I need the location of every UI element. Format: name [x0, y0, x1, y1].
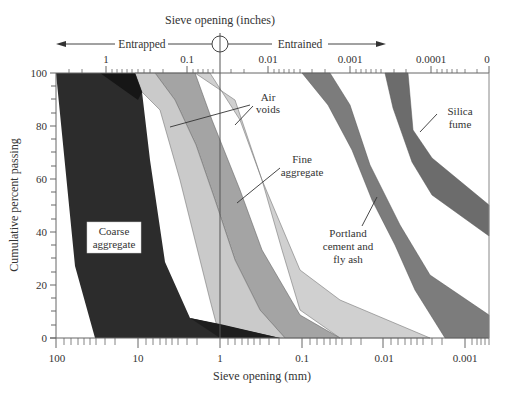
- y-tick-labels: 100 80 60 40 20 0: [31, 67, 48, 344]
- y-axis-label: Cumulative percent passing: [7, 138, 21, 271]
- arrow-right-icon: [376, 41, 386, 47]
- silica-label-line1: Silica: [447, 105, 472, 117]
- x-tick-1: 1: [217, 352, 223, 364]
- fine-aggregate-label: Fine aggregate: [237, 153, 323, 203]
- portland-cement-label: Portland cement and fly ash: [323, 197, 377, 265]
- portland-label-line1: Portland: [329, 227, 367, 239]
- portland-label-line2: cement and: [323, 240, 374, 252]
- y-tick-100: 100: [31, 67, 48, 79]
- x-axis-label: Sieve opening (mm): [213, 369, 311, 383]
- portland-pointer: [362, 197, 377, 226]
- arrow-left-icon: [56, 41, 66, 47]
- y-axis-ticks: [50, 73, 56, 338]
- bottom-tick-labels: 100 10 1 0.1 0.01 0.001: [49, 352, 478, 364]
- y-tick-80: 80: [36, 120, 48, 132]
- x-tick-10: 10: [133, 352, 145, 364]
- x-tick-0.1: 0.1: [295, 352, 309, 364]
- top-tick-0.001: 0.001: [338, 53, 363, 65]
- chart-container: 100 80 60 40 20 0 100 10 1 0.1 0.01 0.00…: [0, 0, 507, 398]
- top-tick-1: 1: [103, 53, 109, 65]
- x-tick-0.001: 0.001: [453, 352, 478, 364]
- top-axis-title: Sieve opening (inches): [165, 13, 275, 27]
- x-tick-100: 100: [49, 352, 66, 364]
- top-tick-0.01: 0.01: [258, 53, 277, 65]
- x-tick-0.01: 0.01: [374, 352, 393, 364]
- gradation-chart: 100 80 60 40 20 0 100 10 1 0.1 0.01 0.00…: [0, 0, 507, 398]
- entrapped-arrow: Entrapped: [56, 38, 212, 51]
- top-axis-ticks: [69, 66, 489, 73]
- air-label-line1: Air: [261, 91, 276, 103]
- y-tick-60: 60: [36, 173, 48, 185]
- top-tick-labels: 1 0.1 0.01 0.001 0.0001 0: [103, 53, 490, 65]
- y-tick-0: 0: [42, 332, 48, 344]
- top-tick-0.0001: 0.0001: [416, 53, 446, 65]
- y-tick-20: 20: [36, 279, 48, 291]
- portland-label-line3: fly ash: [333, 253, 363, 265]
- entrapped-label: Entrapped: [118, 38, 166, 51]
- bottom-axis-ticks: [56, 338, 489, 348]
- coarse-aggregate-label: Coarse aggregate: [87, 222, 141, 253]
- air-label-line2: voids: [256, 103, 280, 115]
- silica-fume-label: Silica fume: [420, 105, 473, 132]
- coarse-label-line1: Coarse: [99, 225, 130, 237]
- fine-label-line2: aggregate: [281, 166, 324, 178]
- fine-label-line1: Fine: [292, 153, 312, 165]
- band-silica-fume: [385, 73, 489, 236]
- silica-pointer: [420, 114, 437, 132]
- fine-aggregate-pointer: [237, 168, 280, 203]
- coarse-label-line2: aggregate: [93, 238, 136, 250]
- top-tick-0: 0: [484, 53, 490, 65]
- y-tick-40: 40: [36, 226, 48, 238]
- entrained-arrow: Entrained: [228, 38, 386, 50]
- entrained-label: Entrained: [278, 38, 323, 50]
- top-tick-0.1: 0.1: [180, 53, 194, 65]
- silica-label-line2: fume: [449, 118, 472, 130]
